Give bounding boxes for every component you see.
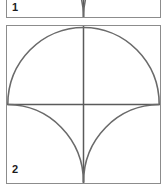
figure-sheet: 1 2 xyxy=(0,0,168,190)
figure-2-lower-left-arc xyxy=(8,105,84,183)
figure-1-lower-right-arc xyxy=(84,0,160,17)
figure-1-label: 1 xyxy=(12,2,18,13)
figure-1-lower-left-arc xyxy=(8,0,84,17)
figure-2-drawing xyxy=(7,26,160,183)
figure-panel-2: 2 xyxy=(6,25,161,184)
figure-2-label: 2 xyxy=(12,164,18,175)
figure-panel-1: 1 xyxy=(6,0,161,18)
figure-2-lower-right-arc xyxy=(84,105,160,183)
figure-1-drawing xyxy=(7,0,160,17)
